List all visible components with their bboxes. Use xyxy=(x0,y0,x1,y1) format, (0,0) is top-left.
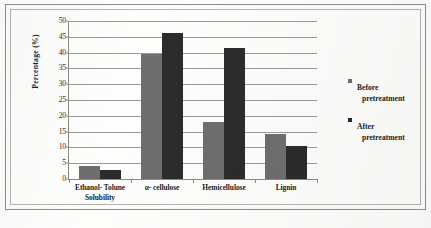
y-tick-mark-10 xyxy=(65,147,68,148)
legend-entry: Afterpretreatment xyxy=(348,115,420,143)
y-tick-mark-5 xyxy=(65,163,68,164)
legend-swatch-icon xyxy=(348,79,352,83)
bar xyxy=(79,166,100,179)
bar xyxy=(265,134,286,179)
legend-label: Afterpretreatment xyxy=(357,122,420,143)
y-tick-mark-50 xyxy=(65,21,68,22)
bar xyxy=(286,146,307,179)
legend-label: Beforepretreatment xyxy=(357,83,420,104)
y-tick-mark-30 xyxy=(65,84,68,85)
bar xyxy=(224,48,245,179)
legend-label-line2: pretreatment xyxy=(357,94,420,104)
chart-legend: BeforepretreatmentAfterpretreatment xyxy=(348,76,420,154)
bar xyxy=(203,122,224,180)
x-axis-label: α- cellulose xyxy=(131,183,193,193)
bar xyxy=(162,33,183,179)
x-tick-mark xyxy=(131,179,132,183)
figure-container: Percentage (%) 05101520253035404550 Etha… xyxy=(0,0,431,228)
y-tick-mark-20 xyxy=(65,115,68,116)
bar-group xyxy=(255,21,317,179)
y-tick-mark-45 xyxy=(65,36,68,37)
y-tick-mark-25 xyxy=(65,100,68,101)
bars-layer xyxy=(69,21,317,179)
y-tick-mark-0 xyxy=(65,179,68,180)
x-label-line: Hemicellulose xyxy=(193,183,255,193)
x-label-line: Lignin xyxy=(255,183,317,193)
y-axis-title: Percentage (%) xyxy=(31,17,40,107)
bar xyxy=(141,54,162,179)
y-tick-mark-15 xyxy=(65,131,68,132)
bar-group xyxy=(69,21,131,179)
x-tick-mark xyxy=(69,179,70,183)
legend-entry: Beforepretreatment xyxy=(348,76,420,104)
x-axis-label: Ethanol- ToluneSolubility xyxy=(69,183,131,202)
x-tick-mark xyxy=(193,179,194,183)
legend-swatch-icon xyxy=(348,118,352,122)
x-tick-mark xyxy=(255,179,256,183)
x-axis-label: Hemicellulose xyxy=(193,183,255,193)
x-axis-label: Lignin xyxy=(255,183,317,193)
x-label-line: Solubility xyxy=(69,193,131,203)
bar-group xyxy=(131,21,193,179)
x-label-line: α- cellulose xyxy=(131,183,193,193)
y-tick-mark-40 xyxy=(65,52,68,53)
x-label-line: Ethanol- Tolune xyxy=(69,183,131,193)
legend-label-line2: pretreatment xyxy=(357,133,420,143)
x-axis-category-labels: Ethanol- ToluneSolubilityα- celluloseHem… xyxy=(69,183,317,209)
y-tick-mark-35 xyxy=(65,68,68,69)
y-axis-tick-labels: 05101520253035404550 xyxy=(44,21,66,179)
bar xyxy=(100,170,121,179)
bar-group xyxy=(193,21,255,179)
x-tick-mark xyxy=(317,179,318,183)
